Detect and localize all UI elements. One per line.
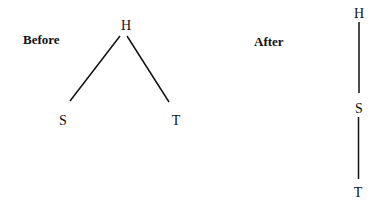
before-node-t: T <box>172 113 181 128</box>
before-edge-h-s <box>70 36 120 101</box>
after-node-t: T <box>354 185 363 200</box>
after-node-s: S <box>355 101 363 116</box>
diagram-canvas: Before H S T After H S T <box>0 0 386 202</box>
tree-comparison-diagram: Before H S T After H S T <box>0 0 386 202</box>
after-title: After <box>254 34 284 49</box>
before-edge-h-t <box>127 36 169 102</box>
before-node-s: S <box>59 113 67 128</box>
before-title: Before <box>23 32 60 47</box>
after-node-h: H <box>354 6 364 21</box>
before-node-h: H <box>121 18 131 33</box>
